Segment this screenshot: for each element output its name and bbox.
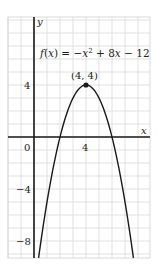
y-tick-neg4-label: −4 (16, 184, 31, 195)
x-tick-4-label: 4 (82, 142, 88, 153)
x-axis-label: x (141, 125, 147, 136)
parabola-chart: y x 0 4 4 −4 −8 (4, 4) f(x) = −x2 + 8x −… (0, 0, 157, 272)
vertex-label: (4, 4) (71, 70, 98, 81)
y-axis-label: y (36, 16, 43, 27)
function-label: f(x) = −x2 + 8x − 12 (39, 47, 150, 59)
vertex-point (83, 82, 88, 87)
y-tick-neg8-label: −8 (16, 236, 31, 247)
y-tick-4-label: 4 (24, 80, 30, 91)
origin-label: 0 (24, 142, 30, 153)
